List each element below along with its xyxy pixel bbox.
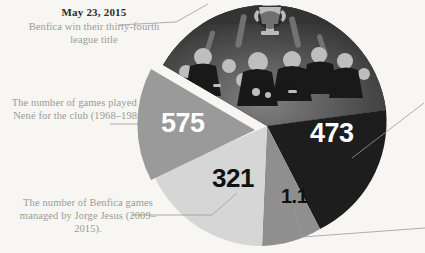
slice-label-11: 1.1 — [281, 185, 307, 208]
slice-label-321: 321 — [212, 163, 254, 194]
callout-date-body: Benfica win their thirty-fourth league t… — [29, 21, 160, 45]
callout-jorge-body: The number of Benfica games managed by J… — [20, 197, 156, 234]
callout-jorge: The number of Benfica games managed by J… — [12, 196, 164, 235]
callout-nene-body: The number of games played by Nené for t… — [12, 97, 150, 121]
slice-label-575: 575 — [161, 108, 205, 139]
callout-date-heading: May 23, 2015 — [14, 6, 174, 19]
slice-label-473: 473 — [310, 118, 354, 149]
callout-nene: The number of games played by Nené for t… — [6, 96, 156, 122]
callout-date: May 23, 2015 Benfica win their thirty-fo… — [14, 6, 174, 46]
